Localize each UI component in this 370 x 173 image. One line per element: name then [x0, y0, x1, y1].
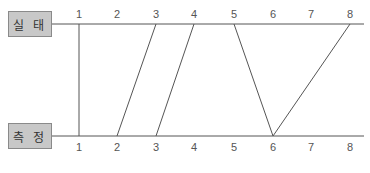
- top-tick-label: 4: [191, 8, 197, 20]
- top-tick-label: 8: [347, 8, 353, 20]
- bottom-tick-label: 8: [347, 141, 353, 153]
- bottom-tick-label: 6: [270, 141, 276, 153]
- mapping-line: [273, 24, 350, 136]
- mapping-line: [156, 24, 194, 136]
- top-tick-labels: 12345678: [76, 8, 353, 20]
- mapping-line: [234, 24, 273, 136]
- top-tick-label: 2: [114, 8, 120, 20]
- mapping-diagram: 12345678 12345678: [0, 0, 370, 173]
- bottom-tick-label: 4: [191, 141, 197, 153]
- top-tick-label: 3: [153, 8, 159, 20]
- bottom-tick-label: 7: [308, 141, 314, 153]
- top-tick-label: 7: [308, 8, 314, 20]
- bottom-tick-label: 2: [114, 141, 120, 153]
- top-tick-label: 5: [231, 8, 237, 20]
- bottom-tick-labels: 12345678: [76, 141, 353, 153]
- mapping-line: [117, 24, 156, 136]
- bottom-tick-label: 3: [153, 141, 159, 153]
- top-tick-label: 6: [270, 8, 276, 20]
- top-tick-label: 1: [76, 8, 82, 20]
- bottom-tick-label: 1: [76, 141, 82, 153]
- mapping-lines: [79, 24, 350, 136]
- bottom-tick-label: 5: [231, 141, 237, 153]
